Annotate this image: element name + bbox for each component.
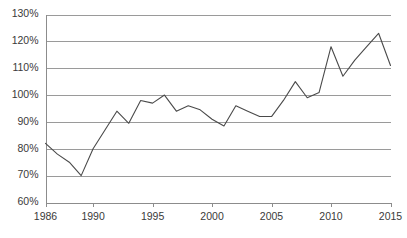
line-chart: 60%70%80%90%100%110%120%130% 19861990199…: [0, 0, 407, 238]
x-tick-label: 2010: [319, 210, 343, 222]
data-series-line: [46, 33, 391, 175]
x-tick-label: 2000: [200, 210, 224, 222]
y-tick-label: 100%: [12, 88, 39, 100]
y-tick-label: 130%: [12, 7, 39, 19]
x-tick-label: 2015: [379, 210, 403, 222]
chart-canvas: 60%70%80%90%100%110%120%130% 19861990199…: [0, 0, 407, 238]
y-tick-label: 60%: [17, 195, 38, 207]
x-axis-tick-labels: 1986199019952000200520102015: [34, 203, 403, 222]
data-series-group: [46, 33, 391, 175]
y-tick-label: 110%: [12, 61, 38, 73]
y-tick-label: 70%: [17, 168, 38, 180]
y-tick-label: 90%: [17, 115, 38, 127]
y-axis-tick-labels: 60%70%80%90%100%110%120%130%: [12, 7, 39, 207]
axis-lines: [46, 15, 391, 204]
x-tick-label: 1986: [34, 210, 58, 222]
x-tick-label: 2005: [260, 210, 284, 222]
x-tick-label: 1995: [141, 210, 165, 222]
y-tick-label: 80%: [17, 142, 38, 154]
gridlines-group: [46, 16, 391, 204]
y-tick-label: 120%: [12, 34, 39, 46]
x-tick-label: 1990: [81, 210, 105, 222]
